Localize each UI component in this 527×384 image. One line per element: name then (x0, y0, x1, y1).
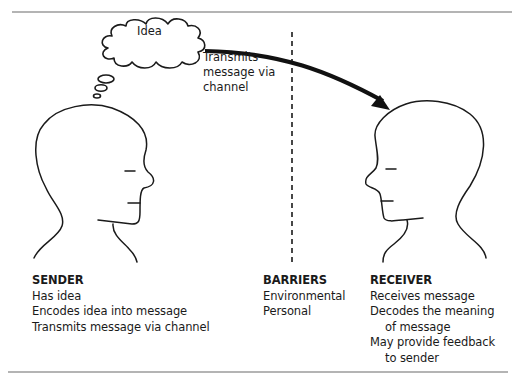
barriers-section: BARRIERS Environmental Personal (263, 273, 345, 320)
thought-bubble-large (98, 75, 114, 83)
arrow-label: Transmits message via channel (203, 50, 275, 95)
sender-section: SENDER Has idea Encodes idea into messag… (32, 273, 210, 335)
sender-item: Transmits message via channel (32, 320, 210, 336)
receiver-heading: RECEIVER (370, 273, 495, 289)
thought-bubble-small (94, 94, 101, 98)
arrow-label-line: Transmits (203, 50, 275, 65)
sender-head-icon (34, 105, 154, 262)
sender-item: Has idea (32, 289, 210, 305)
receiver-item: Receives message (370, 289, 495, 305)
barriers-item: Environmental (263, 289, 345, 305)
receiver-head-icon (366, 101, 486, 262)
receiver-section: RECEIVER Receives message Decodes the me… (370, 273, 495, 366)
thought-bubble-medium (95, 85, 107, 91)
barriers-item: Personal (263, 304, 345, 320)
barriers-heading: BARRIERS (263, 273, 345, 289)
arrow-label-line: channel (203, 80, 275, 95)
idea-label: Idea (137, 24, 162, 38)
receiver-item-continued: to sender (370, 351, 495, 367)
sender-heading: SENDER (32, 273, 210, 289)
receiver-item: Decodes the meaning (370, 304, 495, 320)
arrow-label-line: message via (203, 65, 275, 80)
receiver-item-continued: of message (370, 320, 495, 336)
sender-item: Encodes idea into message (32, 304, 210, 320)
receiver-item: May provide feedback (370, 335, 495, 351)
